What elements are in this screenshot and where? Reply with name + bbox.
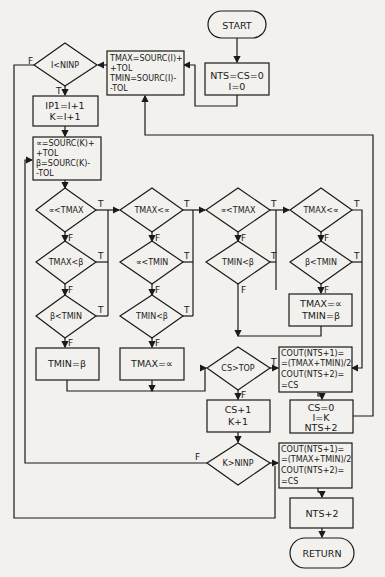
cout1-line-1: COUT(NTS+1)= (281, 349, 344, 358)
d5-label: TMAX<β (48, 258, 84, 267)
i-lt-ninp-label: I<NINP (51, 61, 79, 70)
start-label: START (222, 20, 252, 31)
cs-k-inc-line-2: K+1 (228, 416, 248, 427)
cout1-line-3: COUT(NTS+2)= (281, 370, 344, 379)
d6-t: T (183, 251, 190, 261)
tmax-tmin-line-2: +TOL (110, 64, 133, 73)
set-both-line-1: TMAX=∝ (299, 298, 342, 309)
flowchart-svg: START NTS=CS=0 I=0 TMAX=SOURC(I)+ +TOL T… (0, 0, 385, 577)
return-label: RETURN (302, 548, 341, 559)
cout2-line-2: =(TMAX+TMIN)/2 (281, 455, 351, 464)
d5-f: F (68, 285, 73, 295)
flowchart-canvas: START NTS=CS=0 I=0 TMAX=SOURC(I)+ +TOL T… (0, 0, 385, 577)
cs-k-inc-line-1: CS+1 (225, 404, 252, 415)
d9-f: F (68, 338, 73, 348)
nts-inc-label: NTS+2 (306, 508, 339, 519)
d1-label: ∝<TMAX (48, 206, 84, 215)
d2-label: TMAX<∝ (133, 206, 169, 215)
cout2-line-4: =CS (281, 477, 298, 486)
ip1-line-2: K=I+1 (50, 111, 81, 122)
f-label: F (28, 56, 33, 66)
d3-t: T (270, 199, 277, 209)
t-label: T (55, 86, 62, 96)
k-gt-ninp-label: K>NINP (222, 459, 253, 468)
cs-gt-top-label: CS>TOP (221, 364, 255, 373)
alpha-beta-line-3: β=SOURC(K)- (36, 159, 90, 168)
d5-t: T (97, 251, 104, 261)
d1-t: T (97, 199, 104, 209)
set-both-line-2: TMIN=β (301, 310, 340, 321)
alpha-beta-line-2: +TOL (36, 149, 59, 158)
tmax-tmin-line-4: -TOL (110, 84, 128, 93)
d4-label: TMAX<∝ (302, 206, 338, 215)
k-gt-ninp-f: F (195, 452, 200, 462)
init-line-1: NTS=CS=0 (210, 70, 264, 81)
d3-f: F (241, 233, 246, 243)
d7-t: T (270, 251, 277, 261)
d2-t: T (183, 199, 190, 209)
alpha-beta-line-1: ∝=SOURC(K)+ (36, 139, 95, 148)
d7-f: F (241, 285, 246, 295)
ip1-line-1: IP1=I+1 (45, 100, 84, 111)
set-tmin-label: TMIN=β (47, 358, 86, 369)
cs-gt-top-f: F (241, 390, 246, 400)
d4-t: T (353, 199, 360, 209)
cout1-line-4: =CS (281, 381, 298, 390)
d10-f: F (155, 338, 160, 348)
d4-f: F (324, 233, 329, 243)
d9-t: T (97, 305, 104, 315)
d6-f: F (155, 285, 160, 295)
cout2-line-3: COUT(NTS+2)= (281, 466, 344, 475)
alpha-beta-line-4: -TOL (36, 169, 54, 178)
set-tmax-label: TMAX=∝ (130, 358, 173, 369)
d10-t: T (183, 305, 190, 315)
d1-f: F (68, 233, 73, 243)
d3-label: ∝<TMAX (220, 206, 256, 215)
d7-label: TMIN<β (221, 258, 254, 267)
reset-line-3: NTS+2 (305, 422, 338, 433)
init-line-2: I=0 (229, 81, 246, 92)
cout2-line-1: COUT(NTS+1)= (281, 445, 344, 454)
d6-label: ∝<TMIN (136, 258, 169, 267)
d8-label: β<TMIN (305, 258, 337, 267)
d2-f: F (155, 233, 160, 243)
tmax-tmin-line-1: TMAX=SOURC(I)+ (109, 54, 183, 63)
d8-t: T (353, 251, 360, 261)
cs-gt-top-t: T (270, 357, 277, 367)
d8-f: F (324, 285, 329, 295)
tmax-tmin-line-3: TMIN=SOURC(I)- (109, 74, 176, 83)
d9-label: β<TMIN (50, 312, 82, 321)
cout1-line-2: =(TMAX+TMIN)/2 (281, 359, 351, 368)
d10-label: TMIN<β (135, 312, 168, 321)
